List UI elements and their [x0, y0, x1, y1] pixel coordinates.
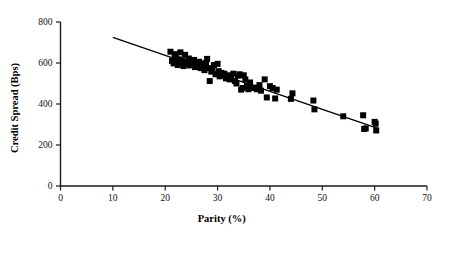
- y-tick-label-600: 600: [38, 58, 53, 68]
- data-point: [289, 90, 295, 96]
- data-point: [360, 112, 366, 118]
- data-point: [207, 78, 213, 84]
- y-tick-labels: 0200400600800: [38, 17, 53, 191]
- x-tick-label-40: 40: [265, 193, 275, 203]
- x-tick-label-0: 0: [58, 193, 63, 203]
- x-axis-title: Parity (%): [198, 213, 247, 225]
- x-tick-label-60: 60: [370, 193, 380, 203]
- data-point: [264, 94, 270, 100]
- x-tick-label-30: 30: [213, 193, 223, 203]
- x-tick-label-10: 10: [108, 193, 118, 203]
- data-points: [167, 49, 379, 134]
- data-point: [262, 76, 268, 82]
- y-tick-label-400: 400: [38, 99, 53, 109]
- data-point: [373, 121, 379, 127]
- data-point: [233, 81, 239, 87]
- data-point: [274, 87, 280, 93]
- x-tick-labels: 010203040506070: [58, 193, 432, 203]
- data-point: [272, 95, 278, 101]
- x-tick-label-50: 50: [318, 193, 328, 203]
- y-axis-title: Credit Spread (Bps): [9, 62, 21, 153]
- regression-line: [113, 37, 378, 128]
- data-point: [204, 56, 210, 62]
- data-point: [363, 125, 369, 131]
- y-tick-label-800: 800: [38, 17, 53, 27]
- trend-line: [113, 37, 378, 128]
- x-tick-label-20: 20: [160, 193, 170, 203]
- tick-marks: [56, 22, 427, 191]
- y-tick-label-0: 0: [48, 181, 53, 191]
- data-point: [167, 49, 173, 55]
- y-tick-label-200: 200: [38, 140, 53, 150]
- data-point: [310, 98, 316, 104]
- scatter-plot: 010203040506070 0200400600800 Parity (%)…: [0, 0, 449, 253]
- chart-figure: 010203040506070 0200400600800 Parity (%)…: [0, 0, 449, 253]
- data-point: [215, 61, 221, 67]
- x-tick-label-70: 70: [422, 193, 432, 203]
- axes: [61, 22, 428, 186]
